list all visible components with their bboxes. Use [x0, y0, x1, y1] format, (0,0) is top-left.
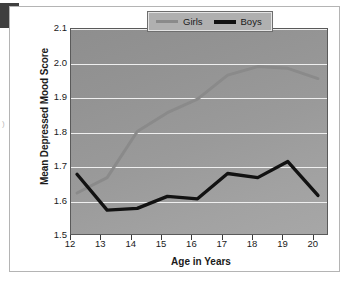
y-axis-tick-labels: 1.51.61.71.81.92.02.1 [41, 28, 67, 235]
legend-label-girls: Girls [183, 16, 203, 27]
chart-legend: Girls Boys [148, 12, 272, 31]
legend-swatch-girls-icon [156, 20, 178, 23]
legend-label-boys: Boys [241, 16, 262, 27]
x-axis-tick-label: 18 [240, 238, 264, 249]
series-line-girls [77, 67, 318, 193]
legend-entry-boys: Boys [214, 16, 262, 27]
legend-swatch-boys-icon [214, 20, 236, 24]
y-axis-tick-label: 2.1 [41, 22, 67, 33]
x-axis-tick-label: 15 [149, 238, 173, 249]
legend-entry-girls: Girls [156, 16, 203, 27]
x-axis-tick-label: 12 [58, 238, 82, 249]
x-axis-tick-label: 14 [119, 238, 143, 249]
y-axis-tick-label: 1.9 [41, 91, 67, 102]
x-axis-tick-label: 20 [301, 238, 325, 249]
x-axis-tick-label: 13 [88, 238, 112, 249]
data-series-layer [71, 29, 327, 234]
plot-area [70, 28, 328, 235]
scan-artifact-mark: ) [2, 119, 7, 128]
y-axis-tick-label: 1.6 [41, 195, 67, 206]
x-axis-tick-label: 19 [270, 238, 294, 249]
chart-figure-frame: Mean Depressed Mood Score 1.51.61.71.81.… [9, 6, 340, 272]
x-axis-tick-label: 17 [210, 238, 234, 249]
x-axis-tick-label: 16 [179, 238, 203, 249]
x-axis-title: Age in Years [61, 256, 341, 267]
y-axis-tick-label: 2.0 [41, 57, 67, 68]
figure-page: ) Mean Depressed Mood Score 1.51.61.71.8… [0, 0, 345, 281]
y-axis-tick-label: 1.7 [41, 160, 67, 171]
y-axis-tick-label: 1.8 [41, 126, 67, 137]
x-axis-tick-labels: 121314151617181920 [70, 238, 328, 252]
